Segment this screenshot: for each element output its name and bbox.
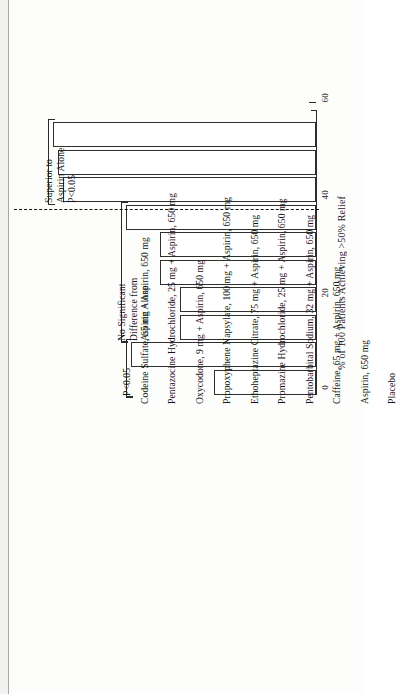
- bracket-arm: [126, 396, 133, 397]
- annotation-line: P<0.05: [66, 117, 78, 203]
- annotation-line: Aspirin Alone: [139, 200, 151, 341]
- bar-category-label: Aspirin, 650 mg: [359, 340, 370, 404]
- group-annotation: P<0.05: [121, 337, 133, 396]
- axis-end-cap: [311, 110, 317, 111]
- annotation-line: Superior to: [43, 117, 55, 203]
- bar-category-label: Oxycodone, 9 mg + Aspirin, 650 mg: [194, 260, 205, 404]
- bar: [53, 122, 316, 147]
- value-axis-line: [316, 110, 317, 394]
- bar: [160, 260, 316, 285]
- bar-category-label: Pentazocine Hydrochloride, 25 mg + Aspir…: [166, 193, 177, 404]
- bar: [160, 232, 316, 257]
- bar-category-label: Promazine Hydrochloride, 25 mg + Aspirin…: [276, 198, 287, 404]
- bar-category-label: Propoxyphene Napsylate, 100 mg + Aspirin…: [221, 197, 232, 404]
- axis-tick-label: 60: [320, 93, 330, 102]
- bar-category-label: Caffeine, 65 mg + Aspirin, 650 mg: [331, 266, 342, 404]
- axis-tick-label: 0: [320, 385, 330, 390]
- bar-category-label: Placebo: [386, 373, 397, 404]
- axis-tick-label: 20: [320, 288, 330, 297]
- group-annotation: Superior toAspirin AloneP<0.05: [43, 117, 78, 203]
- annotation-line: P<0.05: [121, 337, 133, 396]
- axis-tick-label: 40: [320, 190, 330, 199]
- axis-major-tick: [309, 102, 316, 103]
- bar-category-label: Ethoheptazine Citrate, 75 mg + Aspirin, …: [249, 215, 260, 404]
- bar-category-label: Pentobarbital Sodium, 32 mg + Aspirin, 6…: [304, 215, 315, 404]
- aspirin-reference-line: [14, 209, 319, 210]
- bar: [58, 150, 316, 175]
- bracket-arm: [48, 204, 55, 205]
- annotation-line: Aspirin Alone: [55, 117, 67, 203]
- annotation-line: No Significant: [116, 200, 128, 341]
- group-annotation: No SignificantDifference fromAspirin Alo…: [116, 200, 151, 341]
- annotation-line: Difference from: [128, 200, 140, 341]
